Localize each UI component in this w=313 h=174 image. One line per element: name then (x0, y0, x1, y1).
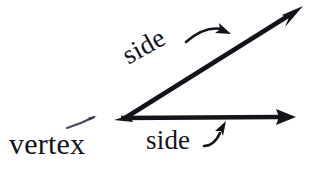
vertex-point (114, 114, 133, 122)
side-upper-pointer (186, 23, 231, 42)
side-lower-pointer (204, 121, 226, 146)
angle-diagram: vertex side side (0, 0, 313, 174)
vertex-label: vertex (9, 129, 85, 159)
lower-ray (121, 109, 296, 125)
lower-ray-arrowhead-icon (276, 109, 296, 125)
upper-ray (125, 6, 303, 118)
lower-ray-shaft (121, 117, 280, 118)
vertex-marker-icon (114, 114, 133, 122)
side-label-lower: side (146, 127, 190, 154)
side-lower-pointer-curve (204, 133, 220, 146)
side-upper-pointer-curve (186, 29, 222, 42)
upper-ray-arrowhead-icon (282, 6, 303, 27)
